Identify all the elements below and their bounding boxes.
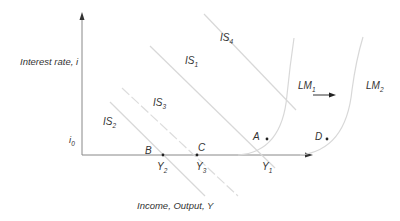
is2-label: IS2: [103, 116, 116, 129]
y-axis-arrowhead-icon: [80, 12, 85, 20]
lm1-curve: [238, 38, 294, 155]
is3-label: IS3: [153, 97, 166, 110]
i0-label: i0: [69, 134, 75, 147]
lm-shift-arrow: [313, 93, 336, 98]
point-a-dot: [266, 138, 269, 141]
is1-label: IS1: [185, 55, 198, 68]
is3-curve: [122, 88, 238, 196]
point-c-label: C: [198, 142, 206, 153]
is4-label: IS4: [220, 32, 233, 45]
lm2-label: LM2: [366, 80, 384, 93]
lm1-label: LM1: [298, 80, 316, 93]
point-b-label: B: [145, 145, 152, 156]
is2-curve: [110, 102, 205, 196]
point-d-label: D: [315, 131, 322, 142]
y2-label: Y2: [157, 161, 168, 174]
x-axis-label: Income, Output, Y: [137, 200, 214, 211]
point-d-dot: [326, 138, 329, 141]
point-c-dot: [196, 154, 199, 157]
right-arrow-icon: [329, 93, 336, 98]
axes: [80, 12, 314, 158]
y-axis-label: Interest rate, i: [20, 56, 79, 67]
point-a-label: A: [252, 131, 260, 142]
y1-label: Y1: [262, 161, 273, 174]
is4-curve: [204, 14, 296, 110]
is1-curve: [150, 46, 275, 168]
point-b-dot: [162, 154, 165, 157]
is-lm-diagram: Interest rate, i Income, Output, Y i0 IS…: [0, 0, 400, 221]
y3-label: Y3: [196, 161, 207, 174]
